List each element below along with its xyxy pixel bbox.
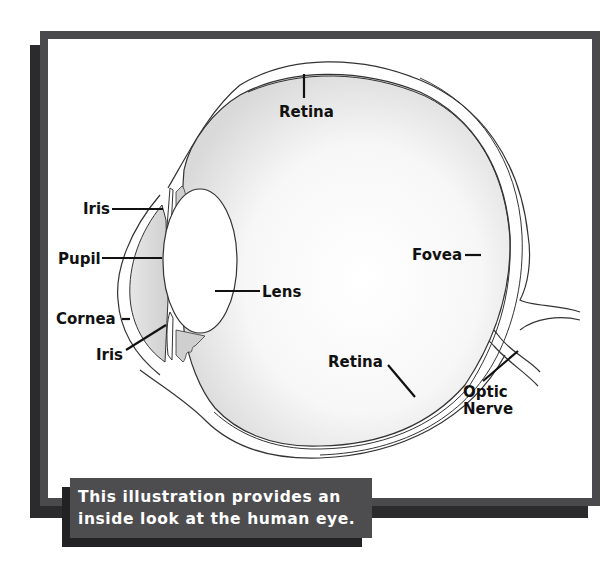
caption-box: This illustration provides an inside loo… [70, 478, 372, 538]
label-iris-bottom: Iris [96, 346, 123, 364]
label-retina-bottom: Retina [328, 353, 383, 371]
label-optic-nerve-line1: Optic [463, 383, 508, 401]
label-fovea: Fovea [412, 246, 462, 264]
caption-line-1: This illustration provides an [78, 486, 372, 508]
label-optic-nerve-line2: Nerve [463, 400, 513, 418]
label-pupil: Pupil [58, 250, 101, 268]
label-lens: Lens [262, 283, 301, 301]
iris-lower [167, 312, 173, 360]
aqueous-humor [130, 205, 168, 362]
label-iris-top: Iris [83, 200, 110, 218]
label-cornea: Cornea [56, 310, 116, 328]
lens [163, 189, 237, 333]
label-retina-top: Retina [279, 103, 334, 121]
caption-line-2: inside look at the human eye. [78, 508, 372, 530]
